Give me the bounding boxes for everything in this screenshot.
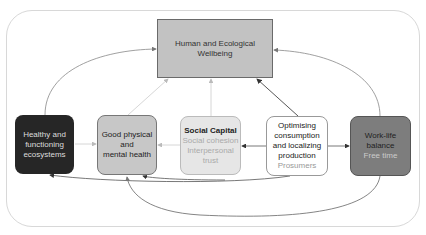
optimising-line-4: production [278, 151, 315, 161]
social-title: Social Capital [184, 126, 236, 136]
ecosystems-line-1: Healthy and [23, 130, 66, 140]
ecosystems-line-2: functioning [25, 140, 64, 150]
node-optimising-consumption: Optimising consumption and localizing pr… [266, 116, 328, 176]
ecosystems-line-3: ecosystems [23, 150, 65, 160]
node-healthy-ecosystems: Healthy and functioning ecosystems [15, 115, 74, 174]
health-line-2: and [120, 140, 133, 150]
wellbeing-label-2: Wellbeing [198, 49, 233, 59]
worklife-line-1: Work-life [365, 131, 396, 141]
optimising-line-3: and localizing [273, 141, 321, 151]
social-sub-2: Interpersonal [187, 146, 234, 156]
social-sub-1: Social cohesion [182, 136, 238, 146]
optimising-line-2: consumption [274, 131, 319, 141]
worklife-line-2: balance [366, 141, 394, 151]
health-line-1: Good physical [102, 130, 153, 140]
optimising-sub: Prosumers [278, 161, 317, 171]
optimising-line-1: Optimising [278, 121, 316, 131]
health-line-3: mental health [103, 150, 151, 160]
node-good-health: Good physical and mental health [97, 115, 157, 175]
wellbeing-label-1: Human and Ecological [175, 39, 255, 49]
worklife-sub: Free time [364, 151, 398, 161]
social-sub-3: trust [203, 156, 219, 166]
node-work-life-balance: Work-life balance Free time [350, 116, 411, 176]
node-social-capital: Social Capital Social cohesion Interpers… [180, 116, 241, 175]
node-human-ecological-wellbeing: Human and Ecological Wellbeing [157, 19, 273, 78]
